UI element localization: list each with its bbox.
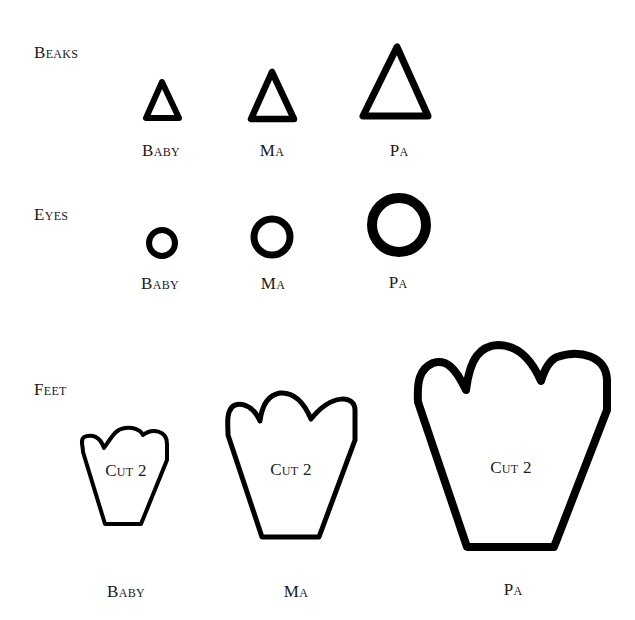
foot-outline-pa-icon xyxy=(0,0,635,620)
foot-cut-instruction-pa: Cut 2 xyxy=(490,458,532,478)
foot-label-pa: Pa xyxy=(504,580,523,600)
